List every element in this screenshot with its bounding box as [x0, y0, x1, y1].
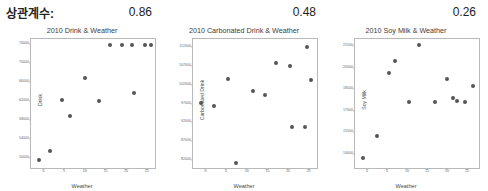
x-axis-tick-label: 10	[245, 170, 249, 174]
y-axis-tick-mark	[29, 101, 31, 102]
scatter-point	[387, 71, 391, 75]
scatter-point	[274, 61, 278, 65]
y-axis-tick-label: 70000	[19, 61, 29, 65]
scatter-point	[97, 99, 101, 103]
chart-panel-soy-milk: 2010 Soy Milk & Weather Soy Milk 1400015…	[326, 24, 486, 191]
scatter-point	[433, 100, 437, 104]
correlation-value-carbonated-drink: 0.48	[258, 5, 316, 19]
scatter-point	[48, 149, 52, 153]
x-axis-tick-label: 25	[145, 170, 149, 174]
x-axis-tick-label: 20	[286, 170, 290, 174]
y-axis-tick-label: 66000	[19, 80, 29, 84]
y-axis-tick-mark	[353, 89, 355, 90]
y-axis-tick-mark	[29, 82, 31, 83]
scatter-point	[212, 104, 216, 108]
scatter-point	[149, 43, 153, 47]
x-axis-label: Weather	[164, 183, 324, 189]
x-axis-tick-label: 20	[124, 170, 128, 174]
scatter-point	[120, 43, 124, 47]
scatter-point	[130, 43, 134, 47]
x-axis-tick-label: 0	[42, 170, 44, 174]
y-axis-tick-mark	[29, 120, 31, 121]
x-axis-tick-label: 5	[225, 170, 227, 174]
x-axis-tick-label: 5	[386, 170, 388, 174]
x-axis-label: Weather	[326, 183, 486, 189]
y-axis-tick-mark	[191, 65, 193, 66]
scatter-point	[303, 125, 307, 129]
scatter-point	[234, 161, 238, 165]
correlation-value-drink: 0.86	[94, 5, 152, 19]
correlation-value-soy-milk: 0.26	[418, 5, 476, 19]
y-axis-label: Drink	[37, 75, 43, 125]
y-axis-tick-label: 15500	[343, 130, 353, 134]
x-axis-tick-label: 10	[405, 170, 409, 174]
y-axis-tick-mark	[191, 160, 193, 161]
y-axis-tick-mark	[353, 132, 355, 133]
scatter-point	[375, 134, 379, 138]
y-axis-label: Soy Milk	[361, 75, 367, 125]
scatter-point	[417, 43, 421, 47]
y-axis-tick-mark	[191, 103, 193, 104]
y-axis-tick-mark	[29, 62, 31, 63]
x-axis-tick-label: 15	[265, 170, 269, 174]
y-axis-tick-mark	[353, 110, 355, 111]
x-axis-tick-label: 10	[83, 170, 87, 174]
chart-panel-carbonated-drink: 2010 Carbonated Drink & Weather Carbonat…	[164, 24, 324, 191]
plot-area: Drink 5000054000580006200066000700007400…	[30, 38, 156, 169]
scatter-point	[445, 77, 449, 81]
scatter-point	[455, 99, 459, 103]
scatter-point	[251, 89, 255, 93]
y-axis-tick-mark	[353, 67, 355, 68]
y-axis-tick-label: 18500	[343, 87, 353, 91]
plot-area: Carbonated Drink 82000870009200097000102…	[192, 38, 318, 169]
y-axis-tick-label: 20000	[343, 66, 353, 70]
y-axis-tick-label: 50000	[19, 157, 29, 161]
x-axis-tick-label: 15	[425, 170, 429, 174]
chart-title: 2010 Carbonated Drink & Weather	[164, 26, 324, 35]
scatter-point	[143, 43, 147, 47]
y-axis-tick-mark	[191, 84, 193, 85]
scatter-point	[83, 76, 87, 80]
scatter-point	[37, 158, 41, 162]
correlation-dashboard: 상관계수: 0.86 0.48 0.26 2010 Drink & Weathe…	[0, 0, 488, 191]
scatter-point	[305, 45, 309, 49]
scatter-point	[361, 156, 365, 160]
y-axis-tick-mark	[191, 122, 193, 123]
y-axis-tick-mark	[29, 43, 31, 44]
y-axis-tick-label: 58000	[19, 118, 29, 122]
x-axis-tick-label: 0	[204, 170, 206, 174]
y-axis-tick-label: 21500	[343, 44, 353, 48]
scatter-point	[263, 93, 267, 97]
scatter-point	[471, 84, 475, 88]
scatter-point	[463, 100, 467, 104]
y-axis-tick-label: 62000	[19, 99, 29, 103]
x-axis-tick-label: 20	[445, 170, 449, 174]
x-axis-tick-label: 15	[103, 170, 107, 174]
scatter-point	[132, 91, 136, 95]
y-axis-tick-label: 102000	[179, 83, 191, 87]
y-axis-tick-label: 87000	[181, 140, 191, 144]
scatter-point	[290, 125, 294, 129]
chart-title: 2010 Soy Milk & Weather	[326, 26, 486, 35]
chart-title: 2010 Drink & Weather	[2, 26, 162, 35]
correlation-label: 상관계수:	[6, 4, 54, 21]
plot-area: Soy Milk 1400015500170001850020000215000…	[354, 38, 480, 169]
y-axis-tick-mark	[29, 139, 31, 140]
scatter-point	[407, 100, 411, 104]
y-axis-label: Carbonated Drink	[199, 75, 205, 125]
y-axis-tick-mark	[29, 158, 31, 159]
correlation-header: 상관계수: 0.86 0.48 0.26	[0, 0, 488, 26]
y-axis-tick-label: 82000	[181, 159, 191, 163]
x-axis-tick-label: 25	[307, 170, 311, 174]
x-axis-tick-label: 5	[63, 170, 65, 174]
x-axis-tick-label: 0	[366, 170, 368, 174]
y-axis-tick-label: 92000	[181, 121, 191, 125]
x-axis-label: Weather	[2, 183, 162, 189]
y-axis-tick-label: 17000	[343, 109, 353, 113]
scatter-point	[288, 64, 292, 68]
scatter-point	[393, 59, 397, 63]
y-axis-tick-label: 74000	[19, 42, 29, 46]
scatter-point	[68, 114, 72, 118]
scatter-point	[309, 78, 313, 82]
y-axis-tick-mark	[353, 46, 355, 47]
